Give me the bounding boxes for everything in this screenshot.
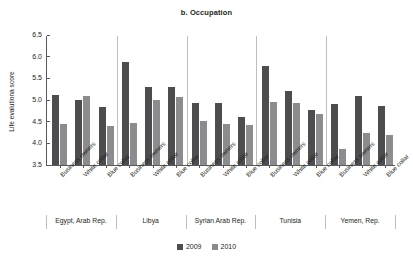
x-axis-tick-mark	[60, 165, 61, 168]
x-axis-tick-mark	[106, 165, 107, 168]
bar-2010	[316, 114, 323, 165]
bar-2010	[200, 121, 207, 165]
x-axis-group-label: Syrian Arab Rep.	[186, 217, 256, 224]
bar-cluster	[378, 36, 393, 165]
y-axis-tick-label: 4.5	[32, 117, 42, 126]
y-axis-tick-mark	[47, 35, 50, 36]
x-axis-occupation-label: White collar	[361, 173, 366, 178]
x-axis-group-label: Egypt, Arab Rep.	[46, 217, 116, 224]
x-axis-tick-mark	[362, 165, 363, 168]
x-axis-occupation-label: Blue collar	[105, 173, 110, 178]
x-axis-occupation-label: Blue collar	[384, 173, 389, 178]
y-axis-tick-label: 6.5	[32, 30, 42, 39]
y-axis-tick-label: 6.0	[32, 52, 42, 61]
bar-cluster	[192, 36, 207, 165]
x-axis-occupation-label: Blue collar	[315, 173, 320, 178]
x-axis-tick-mark	[83, 165, 84, 168]
chart-title: b. Occupation	[0, 8, 413, 17]
y-axis-tick-mark	[47, 56, 50, 57]
x-axis-occupation-label: Business owners	[268, 173, 273, 178]
group-label-divider	[116, 215, 117, 229]
x-axis-occupation-label: Blue collar	[175, 173, 180, 178]
bar-cluster	[99, 36, 114, 165]
chart-legend: 20092010	[0, 243, 413, 250]
legend-swatch-icon	[177, 244, 183, 250]
group-label-divider	[395, 215, 396, 229]
y-axis-tick-mark	[47, 121, 50, 122]
x-axis-occupation-label: White collar	[82, 173, 87, 178]
bar-2010	[107, 126, 114, 165]
y-axis-tick-label: 4.0	[32, 138, 42, 147]
x-axis-tick-mark	[153, 165, 154, 168]
x-axis-group-label: Yemen, Rep.	[325, 217, 395, 224]
bar-cluster	[52, 36, 67, 165]
y-axis-title: Life evalutiona score	[6, 36, 16, 166]
bar-2010	[130, 123, 137, 165]
group-separator	[256, 36, 257, 165]
group-separator	[117, 36, 118, 165]
x-axis-occupation-label: Business owners	[59, 173, 64, 178]
x-axis-tick-mark	[129, 165, 130, 168]
x-axis-occupation-label: White collar	[291, 173, 296, 178]
y-axis-tick-label: 5.5	[32, 73, 42, 82]
x-axis-tick-mark	[223, 165, 224, 168]
y-axis-tick-mark	[47, 143, 50, 144]
group-label-divider	[186, 215, 187, 229]
legend-item-2009[interactable]: 2009	[177, 243, 202, 250]
bar-2010	[60, 124, 67, 165]
legend-label: 2010	[221, 243, 237, 250]
group-label-divider	[255, 215, 256, 229]
bar-2009	[262, 66, 269, 165]
bar-cluster	[331, 36, 346, 165]
y-axis-tick-mark	[47, 78, 50, 79]
x-axis-tick-mark	[176, 165, 177, 168]
legend-item-2010[interactable]: 2010	[212, 243, 237, 250]
bar-cluster	[308, 36, 323, 165]
x-axis-occupation-label: Business owners	[198, 173, 203, 178]
chart-figure: b. Occupation Life evalutiona score 6.56…	[0, 0, 413, 267]
bar-cluster	[262, 36, 277, 165]
x-axis-occupation-label: White collar	[152, 173, 157, 178]
y-axis-tick-label: 3.5	[32, 160, 42, 169]
group-label-divider	[46, 215, 47, 229]
group-separator	[326, 36, 327, 165]
x-axis-occupation-label: Business owners	[338, 173, 343, 178]
x-axis-group-labels: Egypt, Arab Rep.LibyaSyrian Arab Rep.Tun…	[46, 215, 395, 231]
x-axis-tick-mark	[292, 165, 293, 168]
bar-cluster	[238, 36, 253, 165]
bar-2010	[270, 102, 277, 165]
x-axis-group-label: Tunisia	[255, 217, 325, 224]
y-axis-tick-mark	[47, 165, 50, 166]
x-axis-tick-mark	[199, 165, 200, 168]
x-axis-occupation-label: White collar	[222, 173, 227, 178]
x-axis-occupation-label: Business owners	[128, 173, 133, 178]
legend-swatch-icon	[212, 244, 218, 250]
group-label-divider	[325, 215, 326, 229]
bar-2010	[339, 149, 346, 165]
bar-cluster	[168, 36, 183, 165]
x-axis-tick-mark	[269, 165, 270, 168]
plot-area: 6.56.05.55.04.54.03.5 Business ownersWhi…	[46, 36, 395, 166]
y-axis-title-label: Life evalutiona score	[8, 71, 15, 131]
x-axis-tick-mark	[385, 165, 386, 168]
y-axis-tick-mark	[47, 100, 50, 101]
x-axis-group-label: Libya	[116, 217, 186, 224]
x-axis-tick-mark	[316, 165, 317, 168]
x-axis-occupation-label: Blue collar	[245, 173, 250, 178]
bar-cluster	[122, 36, 137, 165]
bar-2009	[122, 62, 129, 165]
bar-2010	[386, 135, 393, 165]
x-axis-tick-mark	[339, 165, 340, 168]
group-separator	[187, 36, 188, 165]
x-axis-tick-mark	[246, 165, 247, 168]
y-axis-tick-label: 5.0	[32, 95, 42, 104]
bar-2009	[52, 95, 59, 165]
legend-label: 2009	[186, 243, 202, 250]
bar-2010	[246, 125, 253, 165]
